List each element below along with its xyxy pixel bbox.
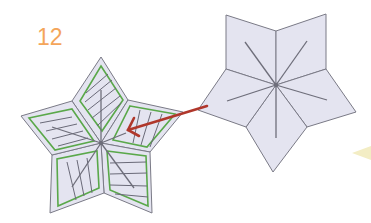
left-center-point: [99, 141, 103, 145]
diagram-canvas: [0, 0, 371, 223]
partial-wedge: [352, 146, 371, 160]
folded-star: [21, 57, 183, 213]
right-center-point: [274, 83, 278, 87]
flat-star: [198, 14, 356, 172]
